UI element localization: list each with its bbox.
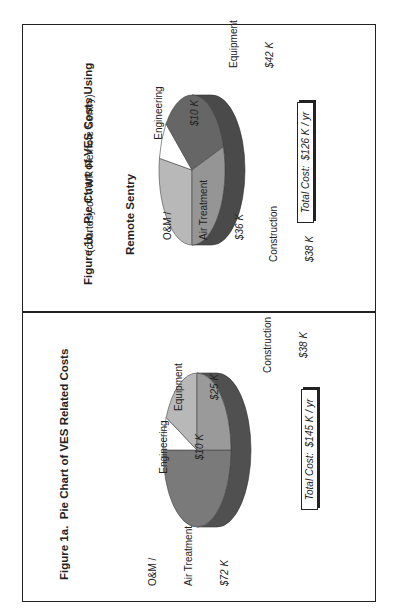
label-om-line2: Air Treatment (183, 526, 195, 586)
figure-1a-label-engineering: Engineering $10 K (134, 419, 230, 475)
label-construction-value: $38 K (298, 313, 310, 377)
label-construction: Construction (262, 313, 274, 377)
label-om-value: $72 K (219, 526, 231, 586)
figure-1b-label-engineering: Engineering $10 K (129, 85, 225, 141)
figure-1b-total-cost: Total Cost: $126 K / yr (297, 102, 314, 223)
document-page: Figure 1a. Pie Chart of VES Related Cost… (0, 0, 399, 615)
figure-1a-label-equipment: Equipment $25 K (149, 359, 245, 415)
label-engineering: Engineering (153, 85, 165, 141)
figure-1a-label-construction: Construction $38 K (238, 313, 334, 377)
figure-1a-label-om: O&M / Air Treatment $72 K (123, 526, 255, 586)
label-equipment-value: $42 K (264, 20, 276, 68)
figure-1b-label-construction: Construction $38 K (244, 206, 340, 262)
label-engineering: Engineering (158, 419, 170, 475)
label-engineering-value: $10 K (189, 85, 201, 141)
label-engineering-value: $10 K (194, 419, 206, 475)
figure-1a-title: Figure 1a. Pie Chart of VES Related Cost… (57, 349, 71, 580)
figure-1b-subtitle: (courtesy of VWR Remote Sentry) (83, 94, 95, 253)
figure-1a-total-cost: Total Cost: $145 K / yr (301, 389, 318, 510)
label-om-line1: O&M / (147, 526, 159, 586)
label-equipment-value: $25 K (209, 359, 221, 415)
figure-1b-label-equipment: Equipment $42 K (204, 20, 300, 68)
label-equipment: Equipment (173, 359, 185, 415)
label-construction: Construction (268, 206, 280, 262)
label-equipment: Equipment (228, 20, 240, 68)
label-om-line1: O&M / (162, 180, 174, 240)
label-om-line2: Air Treatment (198, 180, 210, 240)
